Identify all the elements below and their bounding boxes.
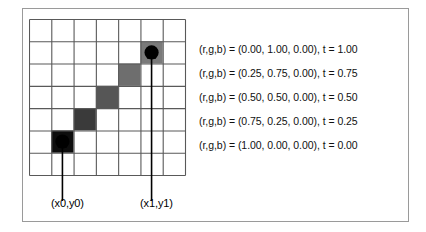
legend-row: (r,g,b) = (0.50, 0.50, 0.00), t = 0.50	[199, 85, 404, 109]
line-cell-t025	[74, 108, 96, 130]
legend-row: (r,g,b) = (0.75, 0.25, 0.00), t = 0.25	[199, 109, 404, 133]
pixel-grid	[29, 19, 185, 175]
figure-panel: (x0,y0) (x1,y1) (r,g,b) = (0.00, 1.00, 0…	[22, 8, 409, 222]
start-point-label: (x0,y0)	[51, 197, 84, 209]
grid-svg	[29, 19, 205, 219]
legend-row: (r,g,b) = (0.25, 0.75, 0.00), t = 0.75	[199, 61, 404, 85]
end-point-arrow	[148, 49, 155, 201]
end-point-dot	[144, 45, 158, 59]
legend: (r,g,b) = (0.00, 1.00, 0.00), t = 1.00 (…	[199, 37, 404, 157]
legend-row: (r,g,b) = (1.00, 0.00, 0.00), t = 0.00	[199, 133, 404, 157]
legend-row: (r,g,b) = (0.00, 1.00, 0.00), t = 1.00	[199, 37, 404, 61]
end-point-label: (x1,y1)	[140, 197, 173, 209]
line-cell-t050	[96, 86, 118, 108]
start-point-dot	[55, 134, 69, 148]
line-cell-t075	[118, 64, 140, 86]
line-cells	[51, 41, 162, 152]
